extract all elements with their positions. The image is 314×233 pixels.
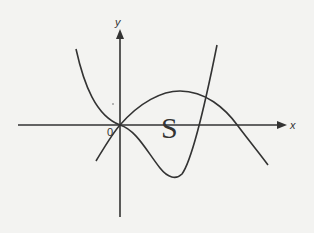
x-axis-label: x	[289, 119, 296, 131]
origin-label: 0	[107, 126, 113, 138]
parabola-curve	[96, 91, 268, 165]
x-axis	[18, 121, 287, 129]
y-axis-label: y	[114, 16, 122, 28]
region-label: S	[161, 111, 178, 144]
quartic-curve	[76, 45, 217, 177]
function-graph-diagram: y x 0 S	[0, 0, 314, 233]
y-axis-arrow-icon	[116, 29, 124, 39]
x-axis-arrow-icon	[277, 121, 287, 129]
stray-dot	[112, 103, 114, 105]
